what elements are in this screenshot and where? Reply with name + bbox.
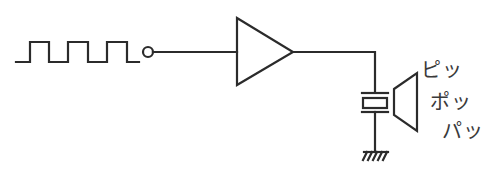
input-terminal-icon xyxy=(143,47,153,57)
speaker-icon xyxy=(394,73,417,131)
output-wire xyxy=(293,52,375,93)
sound-label-po: ポッ xyxy=(430,92,472,112)
circuit-diagram xyxy=(0,0,496,189)
amplifier-icon xyxy=(237,18,293,85)
sound-label-pi: ピッ xyxy=(421,60,463,80)
piezo-crystal-icon xyxy=(362,93,388,112)
sound-label-pa: パッ xyxy=(442,121,484,141)
ground-icon xyxy=(363,152,388,160)
square-wave-icon xyxy=(16,42,139,62)
